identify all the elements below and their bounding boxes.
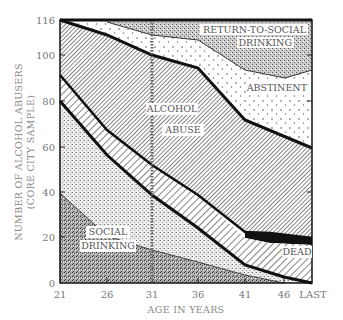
y-tick-60: 60 — [42, 142, 55, 153]
y-tick-0: 0 — [49, 278, 55, 289]
x-tick-31: 31 — [146, 289, 159, 300]
x-tick-26: 26 — [101, 289, 114, 300]
y-axis-title: NUMBER OF ALCOHOL ABUSERS — [13, 63, 24, 241]
y-tick-40: 40 — [42, 187, 55, 198]
x-tick-46: 46 — [278, 289, 291, 300]
y-tick-80: 80 — [42, 96, 55, 107]
label-dead: DEAD — [282, 246, 311, 257]
y-tick-20: 20 — [42, 232, 55, 243]
label-return-to-social: RETURN-TO-SOCIAL — [203, 24, 307, 35]
label-social-drinking: DRINKING — [81, 240, 135, 251]
label-abuse: ABUSE — [164, 124, 200, 135]
label-abstinent: ABSTINENT — [246, 82, 308, 93]
x-axis-title: AGE IN YEARS — [147, 304, 225, 315]
label-return-drinking: DRINKING — [238, 37, 292, 48]
x-tick-41: 41 — [239, 289, 252, 300]
y-axis-subtitle: (CORE CITY SAMPLE) — [25, 95, 36, 209]
label-alcohol: ALCOHOL — [146, 103, 198, 114]
y-tick-100: 100 — [36, 50, 55, 61]
x-tick-21: 21 — [54, 289, 67, 300]
x-tick-last: LAST — [299, 289, 327, 300]
x-tick-36: 36 — [192, 289, 205, 300]
chart: 116 100 80 60 40 20 0 21 26 31 36 41 46 … — [0, 0, 343, 320]
label-social: SOCIAL — [89, 226, 128, 237]
y-tick-116: 116 — [36, 15, 55, 26]
